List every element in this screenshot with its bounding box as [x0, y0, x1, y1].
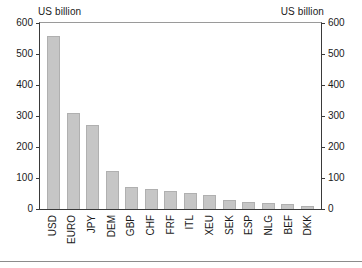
category-slot: JPY	[82, 213, 102, 259]
bar-slot	[181, 23, 201, 209]
bar-frf[interactable]	[164, 191, 177, 209]
left-axis-title: US billion	[38, 6, 81, 17]
y-tick-right	[321, 54, 325, 55]
category-slot: FRF	[161, 213, 181, 259]
y-tick-label-right: 600	[328, 18, 345, 28]
bar-slot	[64, 23, 84, 209]
category-slot: CHF	[141, 213, 161, 259]
x-tick-label-itl: ITL	[185, 215, 195, 229]
bar-chf[interactable]	[145, 189, 158, 209]
y-tick-label-right: 400	[328, 80, 345, 90]
right-axis-title: US billion	[281, 6, 324, 17]
bar-usd[interactable]	[47, 36, 60, 209]
plot-area: 0100200300400500600 0100200300400500600	[39, 22, 322, 210]
y-tick-label-left: 400	[16, 80, 33, 90]
y-tick-label-right: 500	[328, 49, 345, 59]
bar-slot	[239, 23, 259, 209]
y-tick-left	[36, 209, 40, 210]
y-tick-label-left: 100	[16, 173, 33, 183]
bar-slot	[298, 23, 318, 209]
bar-slot	[220, 23, 240, 209]
bar-nlg[interactable]	[262, 203, 275, 209]
bar-bef[interactable]	[281, 204, 294, 209]
category-slot: DKK	[298, 213, 318, 259]
y-tick-right	[321, 147, 325, 148]
bar-esp[interactable]	[242, 202, 255, 209]
bar-slot	[259, 23, 279, 209]
y-tick-label-right: 200	[328, 142, 345, 152]
y-tick-label-right: 0	[328, 204, 334, 214]
bar-slot	[103, 23, 123, 209]
x-tick-label-xeu: XEU	[205, 215, 215, 236]
x-tick-label-nlg: NLG	[264, 215, 274, 236]
category-slot: USD	[43, 213, 63, 259]
bar-xeu[interactable]	[203, 195, 216, 209]
bar-euro[interactable]	[67, 113, 80, 209]
y-tick-label-left: 500	[16, 49, 33, 59]
y-tick-label-left: 200	[16, 142, 33, 152]
y-tick-right	[321, 116, 325, 117]
x-tick-label-chf: CHF	[146, 215, 156, 236]
bar-slot	[83, 23, 103, 209]
category-slot: ITL	[180, 213, 200, 259]
category-slot: XEU	[200, 213, 220, 259]
x-tick-label-dkk: DKK	[303, 215, 313, 236]
category-slot: GBP	[122, 213, 142, 259]
x-tick-label-sek: SEK	[225, 215, 235, 235]
bar-gbp[interactable]	[125, 187, 138, 209]
category-slot: SEK	[220, 213, 240, 259]
x-tick-label-usd: USD	[48, 215, 58, 236]
y-tick-label-left: 300	[16, 111, 33, 121]
bar-dem[interactable]	[106, 171, 119, 209]
x-tick-label-dem: DEM	[107, 215, 117, 237]
bar-slot	[161, 23, 181, 209]
bar-slot	[122, 23, 142, 209]
category-slot: ESP	[239, 213, 259, 259]
bar-slot	[200, 23, 220, 209]
y-tick-right	[321, 209, 325, 210]
y-tick-label-right: 100	[328, 173, 345, 183]
y-tick-right	[321, 178, 325, 179]
bar-slot	[142, 23, 162, 209]
x-tick-label-jpy: JPY	[87, 215, 97, 233]
category-slot: NLG	[259, 213, 279, 259]
bar-sek[interactable]	[223, 200, 236, 209]
y-tick-label-left: 0	[27, 204, 33, 214]
bottom-divider	[0, 261, 362, 262]
x-tick-label-frf: FRF	[166, 215, 176, 234]
x-tick-label-esp: ESP	[244, 215, 254, 235]
category-slot: DEM	[102, 213, 122, 259]
y-tick-right	[321, 23, 325, 24]
bar-chart-figure: US billion US billion 010020030040050060…	[0, 0, 362, 268]
x-tick-label-euro: EURO	[67, 215, 77, 244]
x-axis-category-labels: USDEUROJPYDEMGBPCHFFRFITLXEUSEKESPNLGBEF…	[39, 213, 322, 259]
bar-slot	[278, 23, 298, 209]
bar-series	[40, 23, 321, 209]
bar-itl[interactable]	[184, 193, 197, 209]
category-slot: BEF	[279, 213, 299, 259]
bar-slot	[44, 23, 64, 209]
bar-jpy[interactable]	[86, 125, 99, 209]
y-tick-right	[321, 85, 325, 86]
x-tick-label-bef: BEF	[284, 215, 294, 234]
y-tick-label-left: 600	[16, 18, 33, 28]
category-slot: EURO	[63, 213, 83, 259]
y-tick-label-right: 300	[328, 111, 345, 121]
bar-dkk[interactable]	[301, 206, 314, 209]
x-tick-label-gbp: GBP	[126, 215, 136, 236]
